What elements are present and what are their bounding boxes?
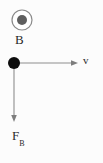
force-arrow-head — [11, 115, 17, 122]
magnetic-force-label: FB — [12, 129, 25, 146]
magnetic-field-label: B — [15, 33, 24, 46]
velocity-label: v — [83, 55, 89, 66]
magnetic-field-dot-icon — [17, 15, 27, 25]
velocity-arrow-head — [71, 60, 78, 66]
physics-diagram: B v FB — [0, 0, 103, 163]
charged-particle-dot — [8, 57, 20, 69]
force-label-subscript: B — [19, 139, 24, 148]
